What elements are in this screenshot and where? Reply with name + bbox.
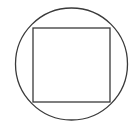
diagram-canvas — [0, 0, 132, 125]
outer-circle — [16, 8, 128, 120]
inscribed-square-figure — [0, 0, 132, 125]
inscribed-square — [33, 28, 110, 102]
